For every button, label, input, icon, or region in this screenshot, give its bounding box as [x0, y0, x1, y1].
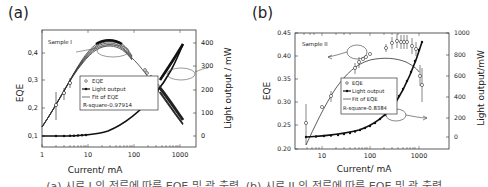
chart-a-svg: 1 10 100 1000 0,1 0,2 0,3 0,4 0 100 200 — [0, 0, 244, 187]
svg-text:200: 200 — [201, 86, 213, 94]
svg-text:1000: 1000 — [411, 152, 428, 160]
svg-text:200: 200 — [454, 114, 466, 121]
legend-fit: Fit of EQE — [92, 94, 119, 100]
eqe-dense-points-a — [160, 88, 183, 120]
svg-text:100: 100 — [201, 109, 213, 117]
svg-text:0: 0 — [454, 133, 458, 140]
svg-text:0: 0 — [201, 132, 205, 140]
legend-eqe: EQE — [92, 78, 104, 84]
y2-axis-title-a: Light output / mW — [223, 47, 233, 129]
y2-tick-labels-b: 0 200 400 600 800 1000 — [454, 29, 470, 140]
svg-text:0,1: 0,1 — [28, 132, 38, 140]
y-tick-labels-a: 0,1 0,2 0,3 0,4 — [28, 49, 38, 140]
y-tick-labels-b: 0.20 0.25 0.30 0.35 0.40 0.45 — [277, 29, 291, 152]
sample-label-b: Sample II — [302, 41, 328, 48]
y2-axis-title-b: Light output/mW — [476, 50, 486, 126]
svg-text:R-square-0.8384: R-square-0.8384 — [343, 105, 387, 112]
svg-text:0.25: 0.25 — [277, 121, 291, 128]
y2-tick-labels-a: 0 100 200 300 400 — [201, 39, 213, 140]
svg-text:100: 100 — [128, 151, 140, 159]
svg-text:0,4: 0,4 — [28, 49, 38, 57]
chart-panel-a: (a) 1 10 100 1000 0,1 0,2 0,3 0,4 — [0, 0, 244, 187]
svg-text:Light output: Light output — [352, 88, 384, 95]
chart-b-svg: 10 100 1000 0.20 0.25 0.30 0.35 0.40 0.4… — [244, 0, 488, 187]
svg-text:0,3: 0,3 — [28, 76, 38, 84]
svg-text:600: 600 — [454, 72, 466, 79]
svg-text:400: 400 — [454, 93, 466, 100]
svg-text:0.30: 0.30 — [277, 98, 291, 105]
svg-text:0.45: 0.45 — [277, 29, 291, 36]
svg-text:10: 10 — [84, 151, 92, 159]
legend-light-output: Light output — [92, 86, 126, 93]
legend-a: EQE Light output Fit of EQE R-square-0.9… — [80, 76, 158, 110]
svg-text:10: 10 — [318, 152, 326, 160]
x-axis-title-b: Current/ mA — [337, 164, 392, 174]
figure-caption: (a) 시료 I 의 전류에 따른 EQE 및 광 출력, (b) 시료 II … — [0, 176, 488, 187]
svg-text:0.35: 0.35 — [277, 75, 291, 82]
svg-text:0,2: 0,2 — [28, 104, 38, 112]
legend-b: EQE Light output Fit of EQE R-square-0.8… — [341, 78, 397, 114]
svg-text:0.40: 0.40 — [277, 52, 291, 59]
x-axis-title-a: Current/ mA — [68, 165, 123, 175]
x-tick-labels-a: 1 10 100 1000 — [40, 151, 188, 159]
chart-panel-b: (b) 10 100 1000 0.20 0.25 0.30 0.35 0.40 — [244, 0, 488, 187]
svg-text:1: 1 — [40, 151, 44, 159]
svg-text:EQE: EQE — [352, 80, 364, 86]
legend-rsquare: R-square-0.97914 — [83, 102, 133, 109]
svg-text:100: 100 — [364, 152, 376, 160]
y-axis-title-b: EQE — [262, 81, 272, 100]
svg-text:400: 400 — [201, 39, 213, 47]
svg-text:0.20: 0.20 — [277, 145, 291, 152]
sample-label-a: Sample I — [48, 39, 72, 46]
svg-text:800: 800 — [454, 51, 466, 58]
svg-text:Fit of EQE: Fit of EQE — [352, 96, 378, 102]
x-tick-labels-b: 10 100 1000 — [318, 152, 427, 160]
svg-text:1000: 1000 — [172, 151, 189, 159]
svg-text:1000: 1000 — [454, 29, 470, 36]
y-axis-title-a: EQE — [15, 83, 25, 102]
